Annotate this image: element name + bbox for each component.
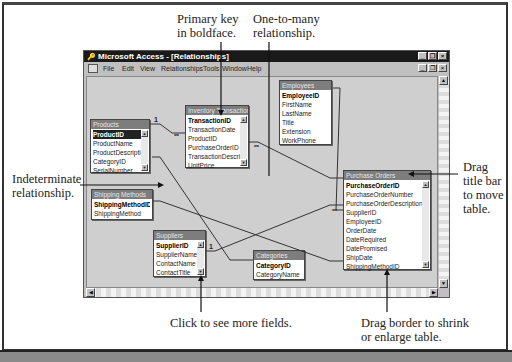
svg-text:∞: ∞ <box>254 142 259 149</box>
svg-text:∞: ∞ <box>332 206 337 213</box>
svg-text:1: 1 <box>154 116 158 123</box>
svg-text:∞: ∞ <box>174 131 179 138</box>
page-bottom-bar <box>0 350 512 362</box>
svg-text:1: 1 <box>209 243 213 250</box>
